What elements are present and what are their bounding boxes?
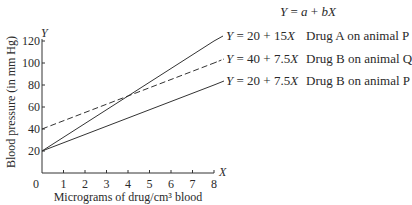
svg-text:5: 5 [147, 177, 153, 191]
svg-text:2: 2 [82, 177, 88, 191]
equation-drug-a-animal-p: Y = 20 + 15X [226, 28, 295, 44]
svg-text:20: 20 [28, 144, 40, 158]
equation-drug-b-animal-q: Y = 40 + 7.5X [226, 51, 298, 67]
label-drug-b-animal-p: Drug B on animal P [306, 73, 410, 89]
svg-text:3: 3 [104, 177, 110, 191]
svg-text:8: 8 [211, 177, 217, 191]
svg-text:0: 0 [33, 177, 39, 191]
leader-line-1 [214, 36, 223, 41]
svg-text:60: 60 [28, 100, 40, 114]
leader-line-2 [214, 59, 224, 63]
leader-line-3 [214, 81, 224, 85]
svg-text:80: 80 [28, 78, 40, 92]
line-drug-b-animal-p [42, 85, 214, 151]
y-axis-title: Blood pressure (in mm Hg) [4, 36, 18, 168]
svg-text:1: 1 [61, 177, 67, 191]
general-equation: Y = a + bX [280, 4, 336, 20]
label-drug-b-animal-q: Drug B on animal Q [306, 51, 412, 67]
svg-text:40: 40 [28, 122, 40, 136]
line-drug-b-animal-q [42, 63, 214, 129]
y-tick-labels: 20 40 60 80 100 120 [22, 34, 40, 158]
svg-text:7: 7 [190, 177, 196, 191]
x-axis-letter: X [218, 165, 227, 179]
svg-text:4: 4 [125, 177, 131, 191]
svg-text:6: 6 [168, 177, 174, 191]
label-drug-a-animal-p: Drug A on animal P [306, 28, 409, 44]
y-axis-letter: Y [41, 26, 49, 40]
equation-drug-b-animal-p: Y = 20 + 7.5X [226, 73, 298, 89]
x-tick-labels: 0 1 2 3 4 5 6 7 8 [33, 177, 217, 191]
x-axis-title: Micrograms of drug/cm³ blood [54, 190, 203, 204]
svg-text:120: 120 [22, 34, 40, 48]
svg-text:100: 100 [22, 56, 40, 70]
